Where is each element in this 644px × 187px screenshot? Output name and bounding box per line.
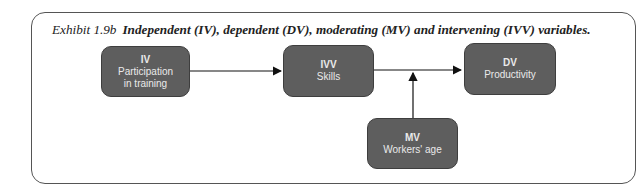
node-ivv: IVV Skills: [283, 45, 374, 97]
node-mv-label: Workers' age: [368, 144, 457, 156]
node-mv: MV Workers' age: [367, 118, 458, 169]
node-ivv-code: IVV: [284, 59, 373, 71]
node-iv: IV Participation in training: [101, 46, 190, 97]
node-iv-label-2: in training: [102, 78, 189, 90]
node-iv-label-1: Participation: [102, 66, 189, 78]
node-dv-code: DV: [465, 57, 555, 69]
node-ivv-label: Skills: [284, 71, 373, 83]
node-mv-code: MV: [368, 132, 457, 144]
node-dv-label: Productivity: [465, 69, 555, 81]
node-iv-code: IV: [102, 54, 189, 66]
node-dv: DV Productivity: [464, 43, 556, 95]
